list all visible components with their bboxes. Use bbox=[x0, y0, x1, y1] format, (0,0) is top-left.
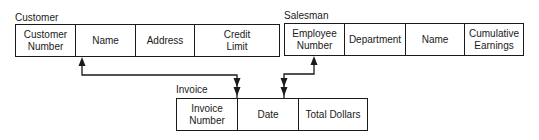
customer-field-name: Name bbox=[76, 25, 136, 56]
invoice-field-date: Date bbox=[238, 99, 299, 130]
customer-invoice-relationship bbox=[79, 57, 241, 98]
customer-table-title: Customer bbox=[15, 12, 58, 24]
invoice-field-total-dollars: Total Dollars bbox=[299, 99, 367, 130]
customer-field-credit-limit: Credit Limit bbox=[195, 25, 279, 56]
salesman-invoice-relationship bbox=[281, 56, 318, 98]
arrowhead-down-icon bbox=[234, 87, 241, 96]
arrowhead-down-icon bbox=[234, 78, 241, 87]
invoice-field-invoice-number: Invoice Number bbox=[177, 99, 238, 130]
salesman-field-name: Name bbox=[406, 24, 465, 55]
salesman-field-department: Department bbox=[345, 24, 406, 55]
invoice-table-title: Invoice bbox=[176, 84, 208, 96]
arrowhead-up-icon bbox=[79, 57, 86, 66]
arrowhead-down-icon bbox=[281, 78, 288, 87]
invoice-table: Invoice Number Date Total Dollars bbox=[176, 98, 368, 131]
customer-table: Customer Number Name Address Credit Limi… bbox=[15, 24, 280, 57]
customer-field-address: Address bbox=[136, 25, 195, 56]
arrowhead-down-icon bbox=[281, 87, 288, 96]
arrowhead-up-icon bbox=[311, 56, 318, 65]
salesman-table-title: Salesman bbox=[284, 10, 328, 22]
salesman-field-employee-number: Employee Number bbox=[285, 24, 345, 55]
customer-field-customer-number: Customer Number bbox=[16, 25, 76, 56]
salesman-table: Employee Number Department Name Cumulati… bbox=[284, 23, 524, 56]
salesman-field-cumulative-earnings: Cumulative Earnings bbox=[465, 24, 523, 55]
